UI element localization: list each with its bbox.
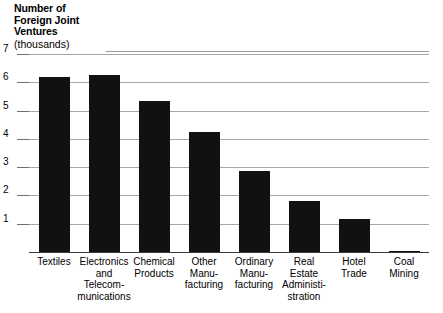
bar: [339, 219, 370, 252]
bar: [389, 251, 420, 253]
y-axis-label-5: 5: [3, 101, 23, 111]
bars-layer: [29, 54, 429, 252]
bar: [189, 132, 220, 252]
category-label-line: Telecom-: [75, 279, 133, 291]
category-label-line: munications: [75, 291, 133, 303]
y-axis-label-1: 1: [3, 214, 23, 224]
bar: [89, 75, 120, 252]
bar: [239, 171, 270, 252]
y-tick-6: [17, 82, 29, 83]
y-tick-2: [17, 195, 29, 196]
y-tick-7: [17, 54, 29, 55]
bar: [139, 101, 170, 252]
category-label-line: Coal: [375, 256, 433, 268]
y-axis-label-4: 4: [3, 129, 23, 139]
category-label-line: stration: [275, 291, 333, 303]
y-tick-4: [17, 139, 29, 140]
x-axis-baseline: [29, 252, 429, 253]
category-label: CoalMining: [375, 256, 433, 279]
chart-units-label: (thousands): [14, 38, 164, 51]
category-label-line: Administi-: [275, 279, 333, 291]
y-tick-1: [17, 224, 29, 225]
y-tick-3: [17, 167, 29, 168]
y-tick-5: [17, 111, 29, 112]
y-axis-label-2: 2: [3, 185, 23, 195]
y-axis-label-6: 6: [3, 72, 23, 82]
bar-chart: Number of Foreign Joint Ventures (thousa…: [0, 0, 443, 313]
chart-title-line-1: Number of: [14, 3, 164, 15]
title-underline-rule: [106, 51, 429, 52]
category-label-line: Mining: [375, 268, 433, 280]
y-axis-label-3: 3: [3, 157, 23, 167]
y-axis-label-7: 7: [3, 44, 23, 54]
chart-title-block: Number of Foreign Joint Ventures (thousa…: [14, 3, 164, 50]
bar: [39, 77, 70, 252]
chart-title-line-3: Ventures: [14, 26, 164, 38]
bar: [289, 201, 320, 252]
